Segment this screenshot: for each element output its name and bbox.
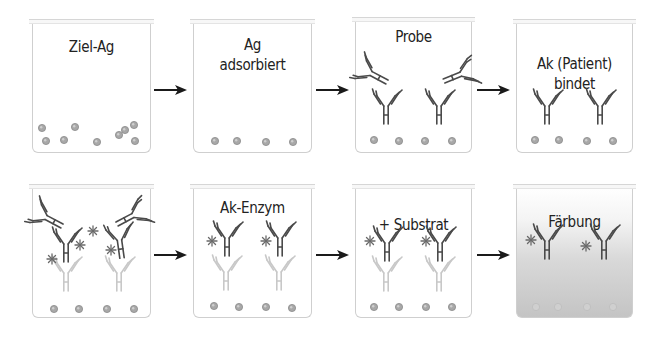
- antigen-highlight: [132, 123, 134, 125]
- enzyme-asterisk-icon: [365, 236, 375, 246]
- antigen-highlight: [95, 140, 97, 142]
- antibody-icon: [350, 51, 395, 93]
- arrow-right-icon: [316, 250, 349, 260]
- enzyme-asterisk-icon: [88, 226, 98, 236]
- antigen-highlight: [237, 305, 239, 307]
- antibody-icon: [427, 226, 457, 261]
- antigen-highlight: [290, 306, 292, 308]
- antigen-highlight: [611, 305, 613, 307]
- antigen-highlight: [585, 305, 587, 307]
- enzyme-asterisk-icon: [421, 236, 431, 246]
- antigen-highlight: [372, 138, 374, 140]
- antibody-icon: [534, 224, 564, 259]
- arrow-right-icon: [477, 85, 510, 95]
- capture-antibody-icon: [213, 255, 243, 290]
- enzyme-asterisk-icon: [526, 235, 536, 245]
- enzyme-asterisk-icon: [207, 236, 217, 246]
- antigen-highlight: [132, 307, 134, 309]
- antigen-highlight: [534, 305, 536, 307]
- antigen-highlight: [556, 305, 558, 307]
- enzyme-asterisk-icon: [106, 245, 116, 255]
- elisa-diagram: Ziel-Ag Ag adsorbiert Probe Ak (Patient)…: [0, 0, 660, 344]
- antigen-highlight: [372, 305, 374, 307]
- antigen-highlight: [105, 307, 107, 309]
- antigen-highlight: [213, 139, 215, 141]
- antigen-highlight: [52, 307, 54, 309]
- antigen-highlight: [585, 139, 587, 141]
- antibody-icon: [534, 89, 564, 124]
- antigen-highlight: [291, 140, 293, 142]
- antibody-icon: [587, 89, 617, 124]
- antibody-icon: [374, 226, 404, 261]
- arrow-right-icon: [477, 250, 510, 260]
- capture-antibody-icon: [106, 256, 136, 291]
- antigen-highlight: [533, 138, 535, 140]
- antibody-icon: [104, 221, 138, 260]
- enzyme-asterisk-icon: [261, 236, 271, 246]
- antigen-highlight: [133, 139, 135, 141]
- antigen-highlight: [235, 139, 237, 141]
- enzyme-asterisk-icon: [581, 241, 591, 251]
- antigen-highlight: [423, 139, 425, 141]
- antibody-icon: [439, 55, 483, 95]
- antigen-highlight: [123, 128, 125, 130]
- enzyme-asterisk-icon: [75, 240, 85, 250]
- antigen-highlight: [611, 139, 613, 141]
- antibody-icon: [214, 221, 244, 256]
- antibody-icon: [25, 195, 70, 237]
- diagram-artwork: [0, 0, 660, 344]
- antigen-highlight: [212, 304, 214, 306]
- antigen-highlight: [264, 140, 266, 142]
- antibody-icon: [591, 224, 621, 259]
- antigen-highlight: [397, 305, 399, 307]
- antigen-highlight: [62, 138, 64, 140]
- antigen-highlight: [73, 125, 75, 127]
- antigen-highlight: [77, 307, 79, 309]
- antibody-icon: [111, 196, 156, 238]
- antigen-highlight: [450, 139, 452, 141]
- capture-antibody-icon: [426, 256, 456, 291]
- antigen-highlight: [44, 139, 46, 141]
- antibody-icon: [426, 89, 456, 124]
- capture-antibody-icon: [373, 256, 403, 291]
- arrow-right-icon: [316, 85, 349, 95]
- arrow-right-icon: [154, 85, 187, 95]
- antibody-icon: [267, 221, 297, 256]
- antibody-icon: [373, 89, 403, 124]
- enzyme-asterisk-icon: [47, 254, 57, 264]
- antigen-highlight: [40, 126, 42, 128]
- capture-antibody-icon: [266, 255, 296, 290]
- antigen-highlight: [264, 305, 266, 307]
- antigen-highlight: [117, 133, 119, 135]
- antigen-highlight: [450, 305, 452, 307]
- antigen-highlight: [557, 138, 559, 140]
- antigen-highlight: [397, 139, 399, 141]
- antigen-highlight: [424, 305, 426, 307]
- arrow-right-icon: [154, 250, 187, 260]
- capture-antibody-icon: [53, 256, 83, 291]
